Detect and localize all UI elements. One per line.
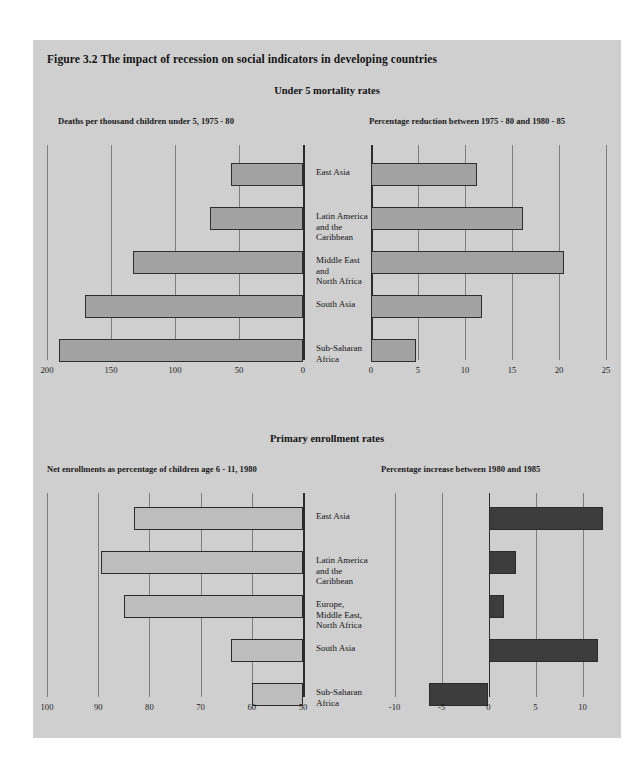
tick-label: 10 [578,702,587,712]
tick-label: 50 [299,702,308,712]
gridline [98,493,99,697]
gridline [47,493,48,697]
category-label: South Asia [316,299,355,310]
tick-label: 100 [41,702,54,712]
tick-label: 150 [105,365,118,375]
tick-label: 5 [533,702,537,712]
panel-title-enrollment: Primary enrollment rates [33,433,621,444]
gridline [606,145,607,360]
category-label: South Asia [316,643,355,654]
figure-page: Figure 3.2 The impact of recession on so… [33,40,621,738]
category-label: East Asia [316,167,350,178]
gridline [111,145,112,360]
bar [133,251,303,274]
bar [231,163,303,186]
tick-label: 0 [486,702,490,712]
tick-label: 60 [248,702,257,712]
bar [489,639,598,662]
chart-enrollment-levels [47,493,303,697]
tick-label: -5 [438,702,445,712]
bar [85,295,303,318]
gridline [47,145,48,360]
chart-mortality-levels [47,145,303,360]
tick-label: 5 [416,365,420,375]
bar [124,595,303,618]
zero-axis-line [303,493,305,697]
bar [210,207,303,230]
tick-label: 20 [555,365,564,375]
tick-label: 15 [508,365,517,375]
panel-title-mortality: Under 5 mortality rates [33,85,621,96]
bar [134,507,303,530]
bar [59,339,303,362]
tick-label: 50 [235,365,244,375]
tick-label: 25 [602,365,611,375]
bar [371,163,477,186]
gridline [395,493,396,697]
subtitle-mortality-levels: Deaths per thousand children under 5, 19… [58,116,234,126]
tick-label: 80 [145,702,154,712]
subtitle-mortality-reduction: Percentage reduction between 1975 - 80 a… [369,116,565,126]
chart-enrollment-increase [371,493,606,697]
bar [101,551,303,574]
tick-label: 90 [94,702,103,712]
bar [231,639,303,662]
category-label: Europe, Middle East, North Africa [316,599,362,631]
category-label: Latin America and the Caribbean [316,555,368,587]
tick-label: 100 [169,365,182,375]
figure-title: Figure 3.2 The impact of recession on so… [47,53,437,65]
category-label: Sub-Saharan Africa [316,343,362,364]
tick-label: 10 [461,365,470,375]
tick-label: 70 [196,702,205,712]
chart-mortality-reduction [371,145,606,360]
gridline [442,493,443,697]
category-label: Latin America and the Caribbean [316,211,368,243]
subtitle-enrollment-levels: Net enrollments as percentage of childre… [47,464,257,474]
bar [371,339,416,362]
bar [371,251,564,274]
bar [371,207,523,230]
category-label: Sub-Saharan Africa [316,687,362,708]
tick-label: -10 [389,702,400,712]
subtitle-enrollment-increase: Percentage increase between 1980 and 198… [381,464,540,474]
bar [252,683,303,706]
category-label: East Asia [316,511,350,522]
tick-label: 0 [369,365,373,375]
tick-label: 200 [41,365,54,375]
bar [371,295,482,318]
bar [489,595,505,618]
bar [489,507,604,530]
tick-label: 0 [301,365,305,375]
category-label: Middle East and North Africa [316,255,362,287]
zero-axis-line [303,145,305,360]
bar [489,551,516,574]
